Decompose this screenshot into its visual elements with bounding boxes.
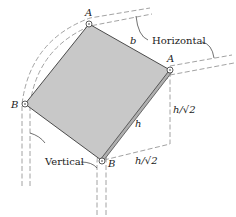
label-b-bottom: B xyxy=(107,158,115,169)
mechanism-diagram: A A B B b h h/√2 h/√2 Horizontal Vertica… xyxy=(0,0,236,217)
pin-b-bottom-icon xyxy=(99,158,105,164)
horizontal-leader-left-icon xyxy=(136,16,148,40)
horizontal-guide xyxy=(170,55,234,75)
vertical-leader-left-icon xyxy=(30,133,45,143)
label-vertical-offset: h/√2 xyxy=(173,104,196,115)
label-a-top: A xyxy=(84,7,92,18)
label-vertical: Vertical xyxy=(44,156,84,167)
label-side-b: b xyxy=(130,35,136,46)
pin-a-top-icon xyxy=(86,21,92,27)
label-side-h: h xyxy=(135,118,141,129)
label-horizontal: Horizontal xyxy=(152,35,206,46)
label-horizontal-offset: h/√2 xyxy=(135,155,158,166)
label-a-right: A xyxy=(166,53,174,64)
plate xyxy=(25,24,170,160)
pin-b-left-icon xyxy=(22,101,28,107)
label-b-left: B xyxy=(10,99,18,110)
pin-a-right-icon xyxy=(167,67,173,73)
